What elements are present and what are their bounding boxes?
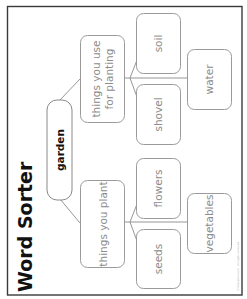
category-node-1: things you use for planting	[81, 36, 125, 123]
category-node-2: things you plant	[81, 181, 125, 268]
category-label-line-2: for planting	[103, 49, 115, 110]
link-category-1-to-shovel	[130, 78, 137, 97]
link-root-to-category-1	[59, 79, 80, 101]
category-label-line-1: things you use	[90, 40, 102, 117]
root-node-label: garden	[54, 129, 66, 171]
item-node-flowers: flowers	[137, 159, 181, 219]
item-label: soil	[152, 35, 164, 53]
item-label: water	[203, 64, 215, 95]
item-label: shovel	[152, 97, 164, 131]
item-label: seeds	[152, 244, 164, 275]
worksheet-title: Word Sorter	[14, 161, 36, 292]
item-label: vegetables	[203, 195, 215, 253]
word-sorter-worksheet: Word Sorter garden things you use for pl…	[0, 0, 247, 299]
root-node: garden	[47, 100, 72, 200]
link-category-2-to-flowers	[130, 204, 137, 222]
link-root-to-category-2	[60, 199, 80, 223]
item-node-soil: soil	[137, 14, 181, 74]
copyright-text: © Education.com · All rights reserved	[237, 242, 240, 291]
category-label-line-1: things you plant	[97, 181, 109, 266]
item-node-shovel: shovel	[137, 85, 181, 145]
item-node-seeds: seeds	[137, 230, 181, 289]
diagram-canvas: Word Sorter garden things you use for pl…	[0, 0, 247, 299]
item-label: flowers	[152, 170, 164, 208]
link-category-1-to-soil	[130, 60, 137, 78]
link-category-2-to-seeds	[130, 222, 137, 241]
item-node-water: water	[188, 50, 232, 110]
item-node-vegetables: vegetables	[188, 194, 232, 254]
